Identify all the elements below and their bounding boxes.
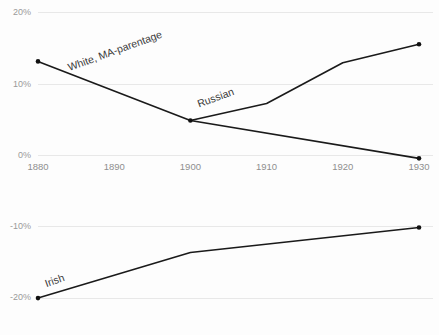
series-label-irish: Irish bbox=[43, 271, 66, 289]
series-label-white-ma-parentage: White, MA-parentage bbox=[66, 28, 163, 73]
data-point-marker bbox=[417, 42, 422, 47]
x-tick-label: 1920 bbox=[332, 161, 353, 172]
y-tick-label: -10% bbox=[10, 221, 31, 231]
data-point-marker bbox=[36, 296, 41, 301]
y-axis-labels: 0%10%20%-20%-10% bbox=[10, 7, 31, 302]
y-tick-label: 10% bbox=[13, 79, 31, 89]
data-point-marker bbox=[36, 59, 41, 64]
line-chart: White, MA-parentageRussianIrish 0%10%20%… bbox=[0, 0, 439, 335]
series-line-russian bbox=[190, 44, 419, 120]
x-axis-labels: 188018901900191019201930 bbox=[27, 161, 429, 172]
series-labels-group: White, MA-parentageRussianIrish bbox=[43, 28, 235, 289]
x-tick-label: 1930 bbox=[408, 161, 429, 172]
chart-container: White, MA-parentageRussianIrish 0%10%20%… bbox=[0, 0, 439, 335]
x-tick-label: 1890 bbox=[104, 161, 125, 172]
series-label-russian: Russian bbox=[196, 85, 236, 109]
series-line-white-ma-parentage bbox=[38, 61, 419, 158]
series-line-irish bbox=[38, 228, 419, 299]
y-tick-label: 20% bbox=[13, 7, 31, 17]
y-tick-label: 0% bbox=[18, 150, 31, 160]
y-tick-label: -20% bbox=[10, 292, 31, 302]
series-group bbox=[36, 42, 422, 300]
data-point-marker bbox=[188, 118, 193, 123]
data-point-marker bbox=[417, 225, 422, 230]
x-tick-label: 1880 bbox=[27, 161, 48, 172]
x-tick-label: 1910 bbox=[256, 161, 277, 172]
x-tick-label: 1900 bbox=[180, 161, 201, 172]
